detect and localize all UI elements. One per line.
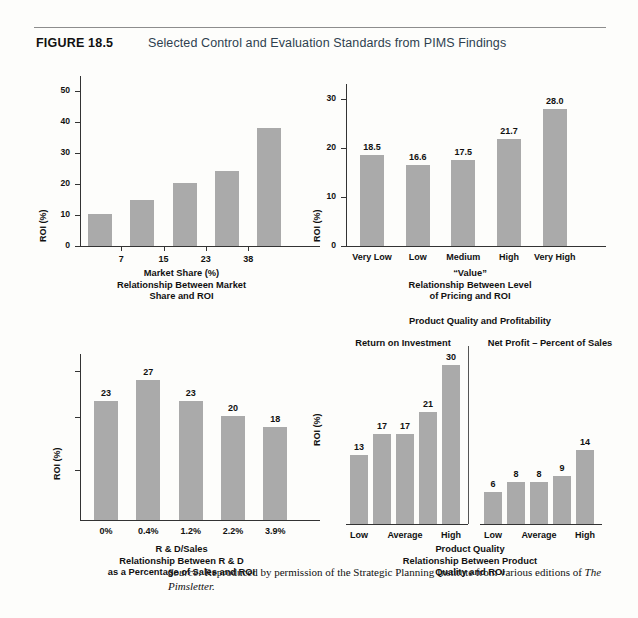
plot2-bar-value: 27 xyxy=(124,367,172,377)
plot1-x-axis xyxy=(346,246,606,247)
plot0-y-tick-label: 10 xyxy=(44,209,70,219)
plot2-bar-value: 23 xyxy=(167,388,215,398)
plot2-bar xyxy=(179,401,203,520)
plot0-y-tick-label: 20 xyxy=(44,178,70,188)
plot0-x-tick xyxy=(206,246,207,251)
plot1-y-tick-label: 30 xyxy=(310,93,336,103)
plot0-y-tick-label: 30 xyxy=(44,147,70,157)
plot0-y-tick xyxy=(75,184,80,185)
chart0-caption: Market Share (%) Relationship Between Ma… xyxy=(54,268,309,303)
plot1-bar xyxy=(360,155,384,246)
plot0-x-axis xyxy=(80,246,320,247)
chart1-y-title: ROI (%) xyxy=(312,210,322,243)
plot1-y-tick xyxy=(341,99,346,100)
plot2-bar xyxy=(221,416,245,520)
chart3-y-title: ROI (%) xyxy=(312,414,322,447)
chart1-caption-line-1: “Value” xyxy=(330,268,610,280)
plot0-y-axis xyxy=(80,76,81,246)
plot1-x-category: Very High xyxy=(525,252,585,262)
plot3b-bar xyxy=(484,492,502,524)
plot0-y-tick xyxy=(75,153,80,154)
plot2-y-tick xyxy=(75,371,80,372)
plot2-x-category: 3.9% xyxy=(245,526,305,536)
chart2-plot: 230%270.4%231.2%202.2%183.9% xyxy=(80,354,310,520)
chart3-panel-0-plot: 13Low1717Average2130High xyxy=(346,354,466,524)
chart3-panel-1-title: Net Profit – Percent of Sales xyxy=(472,338,628,348)
plot0-y-tick xyxy=(75,215,80,216)
plot3b-bar xyxy=(576,450,594,524)
plot1-bar-value: 17.5 xyxy=(439,147,487,157)
plot3a-bar-value: 30 xyxy=(430,352,472,362)
plot1-bar-value: 28.0 xyxy=(531,96,579,106)
plot1-bar-value: 16.6 xyxy=(394,152,442,162)
plot2-y-tick xyxy=(75,470,80,471)
chart2-y-title: ROI (%) xyxy=(52,448,62,481)
plot2-y-tick xyxy=(75,417,80,418)
plot3b-bar-value: 14 xyxy=(564,437,606,447)
chart0-caption-line-2: Relationship Between Market xyxy=(54,280,309,292)
plot3b-bar xyxy=(530,482,548,525)
plot2-y-axis xyxy=(80,354,81,520)
chart-market-share: ROI (%) 010203040507152338 Market Share … xyxy=(24,72,324,302)
chart0-caption-line-3: Share and ROI xyxy=(54,291,309,303)
figure-page: FIGURE 18.5 Selected Control and Evaluat… xyxy=(0,0,638,618)
plot1-y-tick xyxy=(341,246,346,247)
plot1-y-tick xyxy=(341,197,346,198)
plot0-x-tick-label: 23 xyxy=(186,254,226,264)
plot0-x-tick xyxy=(121,246,122,251)
plot2-bar xyxy=(263,427,287,520)
figure-title: Selected Control and Evaluation Standard… xyxy=(148,36,506,50)
chart3-caption-line-1: Product Quality xyxy=(330,544,610,556)
plot0-bar xyxy=(173,183,197,246)
chart0-caption-line-1: Market Share (%) xyxy=(54,268,309,280)
plot0-y-tick-label: 0 xyxy=(44,240,70,250)
plot0-x-tick-label: 7 xyxy=(101,254,141,264)
plot3b-x-axis xyxy=(480,524,602,525)
chart1-caption-line-2: Relationship Between Level xyxy=(330,280,610,292)
plot1-bar xyxy=(543,109,567,246)
plot3a-bar xyxy=(442,365,460,524)
plot0-x-tick xyxy=(248,246,249,251)
plot0-bar xyxy=(257,128,281,246)
plot3b-bar xyxy=(507,482,525,525)
chart-product-quality: Product Quality and Profitability Return… xyxy=(300,316,630,576)
plot3b-x-category: High xyxy=(558,530,612,540)
chart1-caption-line-3: of Pricing and ROI xyxy=(330,291,610,303)
plot0-bar xyxy=(215,171,239,246)
chart3-panel-0-title: Return on Investment xyxy=(338,338,468,348)
plot0-x-tick-label: 38 xyxy=(228,254,268,264)
chart2-caption-line-1: R & D/Sales xyxy=(44,544,319,556)
chart1-plot: 010203018.5Very Low16.6Low17.5Medium21.7… xyxy=(346,84,596,246)
plot1-y-tick-label: 20 xyxy=(310,142,336,152)
plot2-bar-value: 20 xyxy=(209,403,257,413)
plot0-x-tick-label: 15 xyxy=(144,254,184,264)
plot3a-bar xyxy=(373,434,391,524)
chart0-plot: 010203040507152338 xyxy=(80,76,310,246)
plot3b-bar xyxy=(553,476,571,524)
plot2-x-axis xyxy=(80,520,320,521)
source-note: Source: Reproduced by permission of the … xyxy=(168,566,620,593)
source-prefix: Source: xyxy=(168,566,202,578)
chart1-caption: “Value” Relationship Between Level of Pr… xyxy=(330,268,610,303)
plot1-bar-value: 21.7 xyxy=(485,126,533,136)
plot3a-x-axis xyxy=(346,524,468,525)
chart-pricing-value: ROI (%) 010203018.5Very Low16.6Low17.5Me… xyxy=(300,72,620,302)
plot0-bar xyxy=(88,214,112,246)
plot0-x-tick xyxy=(164,246,165,251)
plot1-y-tick xyxy=(341,148,346,149)
chart-rd-sales: ROI (%) 230%270.4%231.2%202.2%183.9% R &… xyxy=(24,340,324,570)
plot0-y-tick-label: 50 xyxy=(44,85,70,95)
top-divider xyxy=(34,27,606,28)
source-text: Reproduced by permission of the Strategi… xyxy=(202,566,585,578)
plot1-y-axis xyxy=(346,84,347,246)
plot3a-bar xyxy=(350,455,368,524)
plot1-y-tick-label: 0 xyxy=(310,240,336,250)
plot2-bar-value: 18 xyxy=(251,414,299,424)
plot1-bar xyxy=(451,160,475,246)
plot2-bar-value: 23 xyxy=(82,388,130,398)
plot1-bar-value: 18.5 xyxy=(348,142,396,152)
chart3-panel-divider xyxy=(468,346,469,524)
chart3-title: Product Quality and Profitability xyxy=(340,316,620,326)
plot0-y-tick-label: 40 xyxy=(44,116,70,126)
plot3a-bar xyxy=(396,434,414,524)
